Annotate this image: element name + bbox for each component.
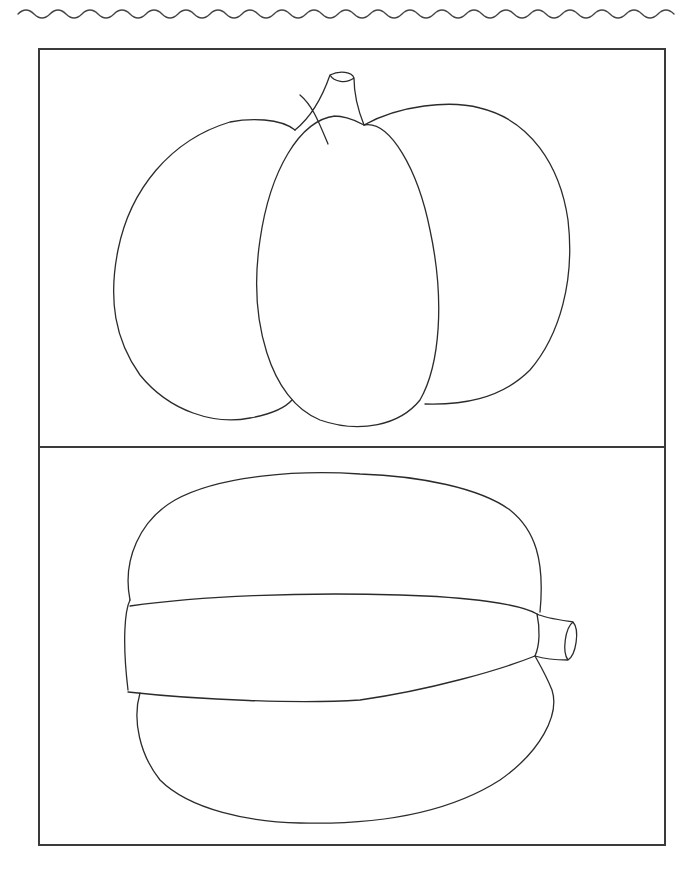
pumpkin-stem-side bbox=[535, 614, 577, 660]
pumpkin-left-lobe bbox=[114, 120, 295, 420]
pumpkin-front-view-drawing bbox=[0, 0, 693, 882]
pumpkin-middle-segment bbox=[125, 594, 537, 702]
pumpkin-stem-top bbox=[295, 72, 364, 144]
pumpkin-bottom-segment bbox=[137, 656, 554, 823]
pumpkin-right-lobe bbox=[364, 104, 570, 404]
pumpkin-center-lobe bbox=[257, 116, 439, 427]
pumpkin-top-segment bbox=[128, 473, 541, 612]
